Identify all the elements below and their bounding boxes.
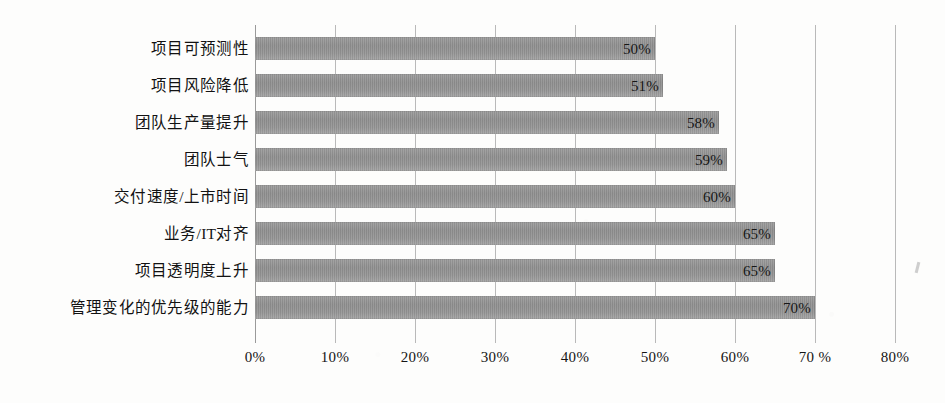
x-tick-label: 30% [481,348,509,366]
bar-value-label: 59% [695,152,723,167]
bar-row: 65% [255,259,895,282]
bar: 58% [255,111,719,134]
x-tick-label: 0% [245,348,266,366]
category-axis-labels: 项目可预测性项目风险降低团队生产量提升团队士气交付速度/上市时间业务/IT对齐项… [0,25,249,343]
plot-area: 50%51%58%59%60%65%65%70% [255,25,895,343]
category-label: 项目风险降低 [0,74,249,97]
category-label: 业务/IT对齐 [0,222,249,245]
x-tick-label: 80% [881,348,909,366]
bar-value-label: 70% [783,300,811,315]
bar-value-label: 65% [743,263,771,278]
category-label: 交付速度/上市时间 [0,185,249,208]
gridline-80 [895,25,896,343]
x-tick-label: 40% [561,348,589,366]
bar-series: 50%51%58%59%60%65%65%70% [255,25,895,343]
bar: 51% [255,74,663,97]
bar-row: 59% [255,148,895,171]
bar-row: 65% [255,222,895,245]
bar: 65% [255,259,775,282]
category-label: 团队生产量提升 [0,111,249,134]
bar-row: 50% [255,37,895,60]
bar: 70% [255,296,815,319]
bar: 59% [255,148,727,171]
bar: 65% [255,222,775,245]
bar: 50% [255,37,655,60]
bar-value-label: 60% [703,189,731,204]
x-tick-label: 10% [321,348,349,366]
x-tick-label: 50% [641,348,669,366]
category-label: 项目可预测性 [0,37,249,60]
bar-chart-figure: 项目可预测性项目风险降低团队生产量提升团队士气交付速度/上市时间业务/IT对齐项… [0,0,945,403]
x-tick-label: 70 % [799,348,831,366]
bar: 60% [255,185,735,208]
x-tick-label: 20% [401,348,429,366]
bar-value-label: 50% [623,41,651,56]
bar-value-label: 65% [743,226,771,241]
bar-row: 70% [255,296,895,319]
bar-row: 51% [255,74,895,97]
bar-value-label: 58% [687,115,715,130]
x-tick-label: 60% [721,348,749,366]
category-label: 项目透明度上升 [0,259,249,282]
bar-row: 60% [255,185,895,208]
scan-artifact-mark [915,262,921,273]
category-label: 管理变化的优先级的能力 [0,296,249,319]
category-label: 团队士气 [0,148,249,171]
bar-value-label: 51% [631,78,659,93]
bar-row: 58% [255,111,895,134]
